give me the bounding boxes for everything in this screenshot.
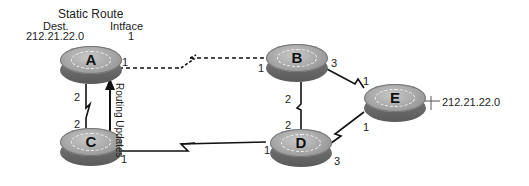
router-c[interactable]: C <box>60 128 122 168</box>
static-route-intf-header: Intface <box>110 20 143 32</box>
router-e-label: E <box>364 90 426 106</box>
link-d-e <box>327 112 364 146</box>
intf-d-to-c: 1 <box>264 144 270 156</box>
static-route-title: Static Route <box>58 8 123 20</box>
intf-b-to-e: 3 <box>331 57 337 69</box>
routing-updates-label: Routing Updates <box>114 83 125 158</box>
intf-d-to-b: 2 <box>285 119 291 131</box>
link-c-d <box>119 142 266 151</box>
static-route-intf-value: 1 <box>128 30 134 42</box>
network-diagram: Static Route Dest. Intface 212.21.22.0 1… <box>0 0 529 186</box>
router-c-label: C <box>60 134 122 150</box>
intf-d-to-e: 3 <box>334 155 340 167</box>
intf-b-to-a: 1 <box>258 62 264 74</box>
router-b[interactable]: B <box>266 44 328 84</box>
link-b-e <box>325 68 364 88</box>
intf-a-to-c: 2 <box>74 91 80 103</box>
router-e[interactable]: E <box>364 84 426 124</box>
intf-c-to-a: 2 <box>74 118 80 130</box>
router-d-label: D <box>270 135 332 151</box>
intf-a-to-b: 1 <box>122 56 128 68</box>
router-a-label: A <box>60 52 122 68</box>
network-address: 212.21.22.0 <box>442 96 500 108</box>
router-b-label: B <box>266 50 328 66</box>
link-a-b <box>119 55 265 68</box>
static-route-dest-value: 212.21.22.0 <box>26 30 84 42</box>
intf-e-to-b: 1 <box>363 75 369 87</box>
intf-b-to-d: 2 <box>285 93 291 105</box>
link-b-d <box>297 82 301 132</box>
router-a[interactable]: A <box>60 46 122 86</box>
router-d[interactable]: D <box>270 129 332 169</box>
intf-e-to-d: 1 <box>363 121 369 133</box>
